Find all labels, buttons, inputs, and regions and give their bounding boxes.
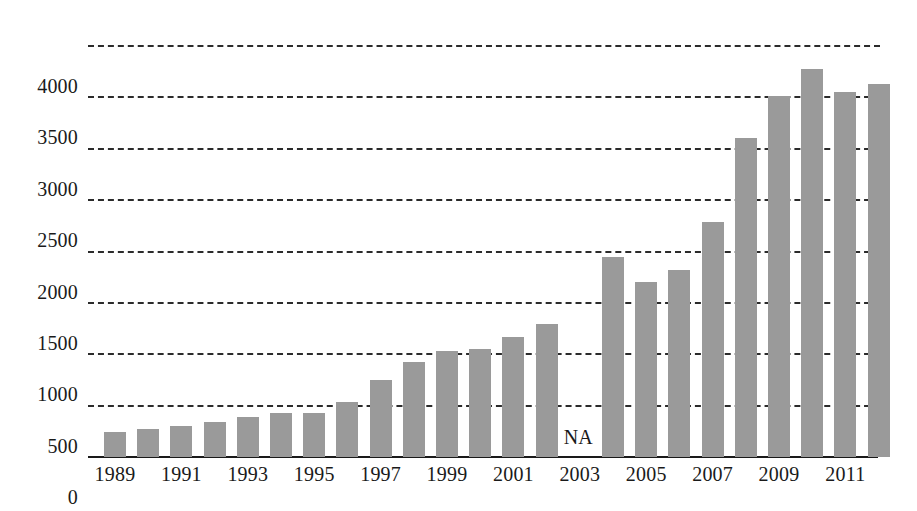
bar-2002 — [536, 324, 558, 457]
y-axis-tick-labels: 05001000150020002500300035004000 — [0, 40, 78, 463]
bar-2006 — [668, 270, 690, 457]
y-tick-label-2000: 2000 — [37, 282, 78, 302]
na-annotation: NA — [564, 427, 593, 447]
bar-1996 — [336, 402, 358, 457]
y-tick-label-0: 0 — [68, 487, 78, 507]
bar-2009 — [768, 96, 790, 457]
bar-2005 — [635, 282, 657, 457]
bar-chart-figure: 05001000150020002500300035004000 NA 1989… — [0, 0, 917, 511]
x-tick-label-2011: 2011 — [825, 462, 865, 486]
bar-1992 — [204, 422, 226, 457]
bar-2012 — [868, 84, 890, 457]
x-axis-tick-labels: 1989199119931995199719992001200320052007… — [88, 462, 883, 502]
bar-1998 — [403, 362, 425, 457]
y-tick-label-1000: 1000 — [37, 384, 78, 404]
bar-1990 — [137, 429, 159, 457]
bar-1993 — [237, 417, 259, 457]
y-tick-label-4000: 4000 — [37, 76, 78, 96]
x-tick-label-2001: 2001 — [493, 462, 534, 486]
bar-1994 — [270, 413, 292, 457]
bar-2004 — [602, 257, 624, 457]
y-tick-label-1500: 1500 — [37, 333, 78, 353]
x-tick-label-2003: 2003 — [559, 462, 600, 486]
bar-1999 — [436, 351, 458, 457]
x-tick-label-1993: 1993 — [227, 462, 268, 486]
bars-series — [88, 40, 883, 463]
x-tick-label-2005: 2005 — [626, 462, 667, 486]
bar-2008 — [735, 138, 757, 457]
bar-1991 — [170, 426, 192, 457]
x-tick-label-2009: 2009 — [759, 462, 800, 486]
x-tick-label-1999: 1999 — [427, 462, 468, 486]
bar-1989 — [104, 432, 126, 457]
x-tick-label-2007: 2007 — [692, 462, 733, 486]
bar-1997 — [370, 380, 392, 457]
x-tick-label-1995: 1995 — [294, 462, 335, 486]
bar-2011 — [834, 92, 856, 457]
y-tick-label-500: 500 — [47, 436, 78, 456]
x-tick-label-1989: 1989 — [95, 462, 136, 486]
y-tick-label-3000: 3000 — [37, 179, 78, 199]
y-tick-label-2500: 2500 — [37, 230, 78, 250]
bar-1995 — [303, 413, 325, 457]
bar-2001 — [502, 337, 524, 457]
y-tick-label-3500: 3500 — [37, 127, 78, 147]
bar-2000 — [469, 349, 491, 457]
bar-2010 — [801, 69, 823, 457]
x-tick-label-1997: 1997 — [360, 462, 401, 486]
x-tick-label-1991: 1991 — [161, 462, 202, 486]
plot-area: NA — [88, 40, 883, 463]
bar-2007 — [702, 222, 724, 457]
